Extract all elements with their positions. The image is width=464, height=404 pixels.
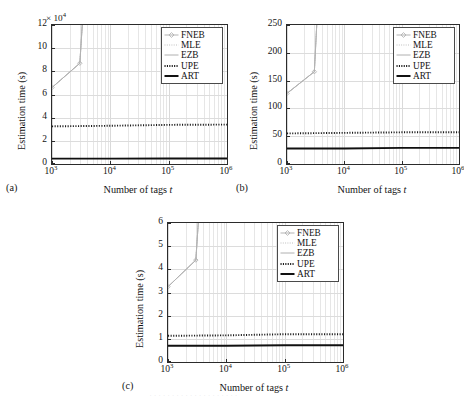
y-axis-tick: [52, 95, 55, 96]
x-axis-tick-label: 106: [452, 167, 464, 177]
legend-label: FNEB: [297, 228, 321, 238]
legend-line-sample-upe: [396, 61, 411, 71]
y-axis-tick-label: 0: [133, 356, 163, 366]
legend-item-art: ART: [164, 71, 219, 81]
legend-line-sample-fneb: [164, 30, 179, 40]
y-axis-tick: [52, 141, 55, 142]
legend-label: ART: [413, 71, 431, 81]
series-line-mle: [168, 223, 198, 287]
x-axis-tick: [285, 359, 286, 362]
y-axis-tick-label: 4: [17, 112, 47, 122]
y-axis-tick-label: 12: [17, 19, 47, 29]
x-axis-tick-label: 103: [161, 365, 174, 375]
legend: FNEBMLEEZBUPEART: [277, 225, 339, 282]
y-axis-tick-label: 8: [17, 66, 47, 76]
y-axis-tick-label: 6: [133, 217, 163, 227]
legend-line-sample-upe: [164, 61, 179, 71]
x-axis-tick: [226, 359, 227, 362]
x-axis-tick-label: 106: [336, 365, 349, 375]
legend-line-sample-art: [164, 71, 179, 81]
series-line-fneb: [287, 25, 317, 93]
legend-line-sample-mle: [280, 238, 295, 248]
y-axis-tick-label: 2: [17, 135, 47, 145]
legend-item-ezb: EZB: [280, 248, 335, 258]
series-line-ezb: [287, 25, 317, 93]
x-axis-tick-label: 105: [394, 167, 407, 177]
y-axis-tick: [287, 25, 290, 26]
y-axis-tick: [287, 81, 290, 82]
y-axis-tick: [52, 118, 55, 119]
x-axis-tick-label: 104: [103, 167, 116, 177]
legend-item-fneb: FNEB: [164, 30, 219, 40]
legend-item-upe: UPE: [396, 61, 451, 71]
panel-c: Estimation time (s) FNEBMLEEZBUPEART Num…: [116, 198, 348, 398]
legend-item-ezb: EZB: [164, 50, 219, 60]
series-line-mle: [287, 25, 317, 93]
x-axis-tick-label: 103: [280, 167, 293, 177]
y-axis-tick-label: 1: [133, 333, 163, 343]
legend-item-fneb: FNEB: [280, 228, 335, 238]
series-line-upe: [287, 132, 459, 133]
x-axis-tick: [227, 161, 228, 164]
legend-item-mle: MLE: [164, 40, 219, 50]
y-axis-tick-label: 0: [17, 158, 47, 168]
series-line-fneb: [168, 223, 198, 287]
panel-b: Estimation time (s) FNEBMLEEZBUPEART Num…: [232, 0, 463, 200]
legend-line-sample-mle: [164, 40, 179, 50]
y-axis-tick: [287, 53, 290, 54]
x-axis-tick: [110, 161, 111, 164]
legend-line-sample-fneb: [280, 228, 295, 238]
y-axis-tick: [168, 223, 171, 224]
y-axis-tick-label: 3: [133, 287, 163, 297]
legend-item-fneb: FNEB: [396, 30, 451, 40]
legend-line-sample-mle: [396, 40, 411, 50]
y-axis-tick-label: 10: [17, 42, 47, 52]
legend-label: UPE: [181, 61, 199, 71]
panel-b-plot-area: FNEBMLEEZBUPEART: [286, 24, 460, 165]
legend-label: EZB: [413, 50, 431, 60]
x-axis-tick-label: 106: [220, 167, 233, 177]
y-axis-tick-label: 4: [133, 264, 163, 274]
x-axis-tick-label: 104: [337, 167, 350, 177]
grid-line-vertical-major: [227, 25, 228, 164]
legend: FNEBMLEEZBUPEART: [161, 27, 223, 84]
y-axis-tick-label: 100: [252, 103, 282, 113]
y-axis-tick-label: 200: [252, 47, 282, 57]
legend-line-sample-fneb: [396, 30, 411, 40]
legend-item-upe: UPE: [164, 61, 219, 71]
series-line-fneb: [52, 25, 82, 88]
y-axis-tick: [287, 108, 290, 109]
y-axis-tick: [168, 269, 171, 270]
series-line-art: [287, 148, 459, 149]
panel-c-tag: (c): [122, 380, 133, 391]
grid-line-vertical-major: [459, 25, 460, 164]
y-axis-tick: [52, 25, 55, 26]
legend-label: MLE: [413, 40, 433, 50]
x-axis-tick: [343, 359, 344, 362]
scan-artifact-text: . . . . . . . . . . . . . . . . . . . .: [150, 392, 238, 397]
y-axis-tick: [168, 246, 171, 247]
x-axis-tick: [402, 161, 403, 164]
legend-item-art: ART: [396, 71, 451, 81]
panel-a-tag: (a): [6, 182, 17, 193]
legend-line-sample-ezb: [396, 50, 411, 60]
x-axis-tick-label: 105: [277, 365, 290, 375]
series-line-upe: [168, 334, 343, 336]
y-axis-tick-label: 5: [133, 240, 163, 250]
legend-label: MLE: [181, 40, 201, 50]
panel-a: Estimation time (s) × 104 FNEBMLEEZBUPEA…: [0, 0, 232, 200]
grid-line-vertical-major: [343, 223, 344, 362]
y-axis-tick: [168, 293, 171, 294]
x-axis-tick-label: 105: [161, 167, 174, 177]
legend-label: ART: [181, 71, 199, 81]
legend-item-art: ART: [280, 269, 335, 279]
y-axis-tick-label: 250: [252, 19, 282, 29]
panel-a-x-axis-title: Number of tags t: [104, 184, 173, 195]
legend-item-mle: MLE: [280, 238, 335, 248]
panel-b-x-axis-title: Number of tags t: [338, 184, 407, 195]
legend-label: FNEB: [181, 30, 205, 40]
legend-label: UPE: [297, 259, 315, 269]
legend-line-sample-upe: [280, 259, 295, 269]
series-line-mle: [52, 25, 82, 88]
panel-a-y-multiplier: × 104: [46, 13, 66, 23]
